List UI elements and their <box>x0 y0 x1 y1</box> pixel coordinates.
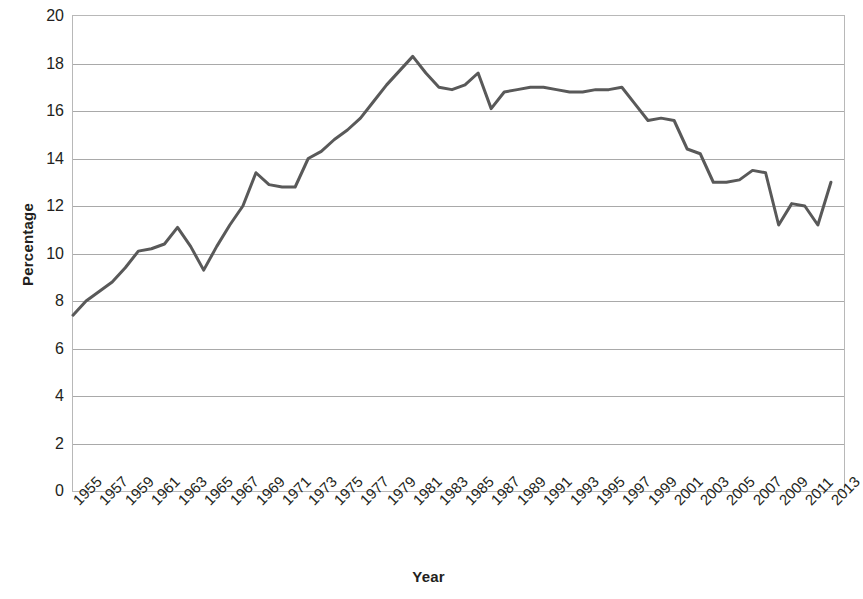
x-axis-tick-label: 1991 <box>540 473 574 507</box>
x-axis-tick-label: 1961 <box>148 473 182 507</box>
x-axis-tick-label: 1977 <box>357 473 391 507</box>
x-axis-tick-label: 1981 <box>410 473 444 507</box>
x-axis-tick-label: 1955 <box>70 473 104 507</box>
x-axis-tick-label: 1963 <box>175 473 209 507</box>
x-axis-tick-label: 2007 <box>750 473 784 507</box>
x-axis-tick-label: 1979 <box>384 473 418 507</box>
x-axis-tick-label: 1997 <box>619 473 653 507</box>
x-axis-title: Year <box>0 568 857 585</box>
x-axis-tick-label: 2011 <box>802 474 835 507</box>
x-axis-tick-label: 1967 <box>227 473 261 507</box>
x-axis-tick-label: 1993 <box>567 473 601 507</box>
x-axis-tick-label: 2009 <box>776 473 810 507</box>
x-axis-tick-label: 1965 <box>201 473 235 507</box>
x-axis-tick-label: 1969 <box>253 473 287 507</box>
x-axis-tick-label: 2013 <box>828 473 862 507</box>
x-axis-tick-label: 1995 <box>593 473 627 507</box>
x-axis-tick-label: 1983 <box>436 473 470 507</box>
x-axis-tick-label: 2005 <box>723 473 757 507</box>
x-axis-tick-label: 1999 <box>645 473 679 507</box>
